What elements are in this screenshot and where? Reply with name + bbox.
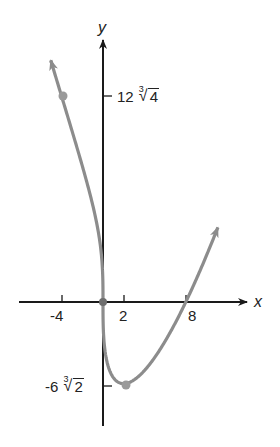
point-minimum-marker: [122, 381, 131, 390]
x-ticks: [62, 295, 186, 302]
function-curve: [51, 62, 216, 384]
x-axis-label: x: [254, 294, 262, 310]
y-tick-top-coef: 12: [117, 88, 134, 105]
curve-arrow-left: [51, 60, 53, 65]
x-tick-label-8: 8: [188, 308, 196, 323]
cube-root: 3 4: [138, 88, 159, 104]
y-tick-bottom-coef: -6: [45, 378, 58, 395]
cube-root: 3 2: [63, 378, 84, 394]
function-graph: [0, 0, 280, 447]
point-origin-marker: [99, 298, 107, 306]
y-tick-label-top: 12 3 4: [117, 88, 159, 104]
point-left-marker: [59, 92, 68, 101]
y-tick-label-bottom: -6 3 2: [45, 378, 84, 394]
x-tick-label-2: 2: [119, 308, 127, 323]
curve-arrow-right: [216, 227, 218, 232]
y-axis-label: y: [98, 20, 106, 36]
x-tick-label-neg4: -4: [50, 308, 63, 323]
